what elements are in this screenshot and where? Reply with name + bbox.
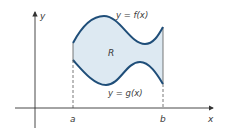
region-between-curves-diagram: y x y = f(x) y = g(x) R a b <box>0 0 227 136</box>
bound-b-label: b <box>160 114 166 124</box>
y-axis-label: y <box>39 11 46 21</box>
bottom-curve-label: y = g(x) <box>107 88 143 98</box>
top-curve-label: y = f(x) <box>115 10 148 20</box>
bound-a-label: a <box>70 114 76 124</box>
x-axis-label: x <box>207 114 214 124</box>
region-label: R <box>108 48 114 58</box>
